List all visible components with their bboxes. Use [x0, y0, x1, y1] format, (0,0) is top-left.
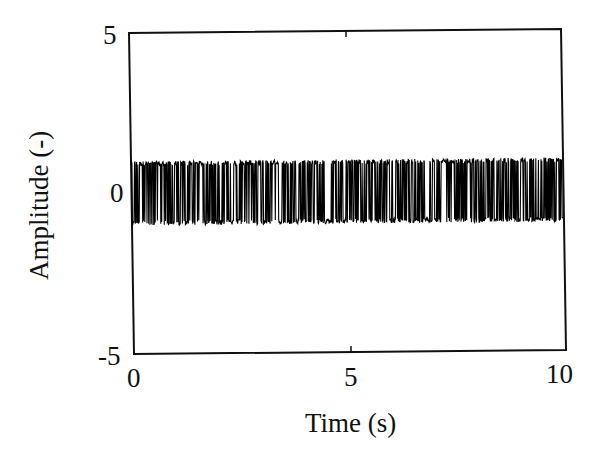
y-axis-label: Amplitude (-) — [24, 131, 54, 280]
x-tick-label-10: 10 — [546, 359, 573, 389]
x-tick-label-0: 0 — [127, 363, 141, 393]
x-tick-label-5: 5 — [344, 362, 358, 392]
y-tick-label-0: 0 — [110, 178, 124, 208]
signal-group — [131, 158, 563, 226]
x-axis-label: Time (s) — [305, 408, 396, 438]
signal-line — [131, 158, 563, 226]
y-tick-label-minus-5: -5 — [98, 341, 121, 371]
amplitude-time-chart: 5 0 -5 0 5 10 Time (s) Amplitude (-) — [0, 0, 607, 455]
y-tick-label-5: 5 — [103, 20, 117, 50]
